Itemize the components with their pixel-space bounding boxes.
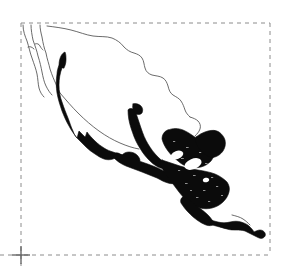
distribution-map <box>0 0 292 272</box>
figure-root: Outline map of Mexico and Central Americ… <box>0 0 292 272</box>
